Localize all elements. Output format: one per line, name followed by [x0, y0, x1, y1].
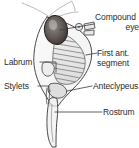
label-compound-eye-line1: Compound — [95, 12, 136, 22]
label-first-ant-segment: First ant. segment — [97, 48, 139, 68]
label-compound-eye: Compound eye — [95, 12, 139, 32]
rostrum-shape — [47, 98, 58, 147]
label-labrum: Labrum — [4, 57, 44, 67]
label-first-ant-segment-line1: First ant. — [97, 48, 129, 58]
label-compound-eye-line2: eye — [95, 22, 139, 32]
label-stylets: Stylets — [4, 81, 44, 91]
label-anteclypeus: Anteclypeus — [93, 81, 139, 91]
figure-panel: Compound eye First ant. segment Anteclyp… — [0, 0, 139, 148]
label-first-ant-segment-line2: segment — [97, 58, 139, 68]
label-rostrum: Rostrum — [103, 107, 139, 117]
antenna-strokes — [22, 1, 78, 18]
